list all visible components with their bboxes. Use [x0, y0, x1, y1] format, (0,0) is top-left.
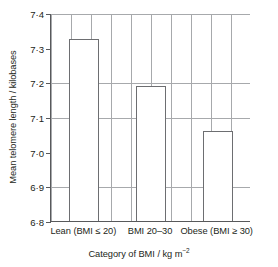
y-axis-tick [46, 83, 51, 84]
y-axis-tick-label: 7·1 [30, 113, 44, 124]
plot-area: 7·47·37·27·17·06·96·8 [50, 14, 250, 222]
bar [136, 86, 166, 221]
y-axis-title: Mean telomere length / kilobases [8, 12, 18, 222]
y-axis-tick [46, 187, 51, 188]
x-axis-category-label: Obese (BMI ≥ 30) [180, 226, 253, 236]
y-axis-tick-label: 7·2 [30, 78, 44, 89]
bar-chart: Mean telomere length / kilobases 7·47·37… [0, 0, 278, 267]
x-axis-title-text: Category of BMI / kg m [88, 249, 182, 259]
bar [203, 131, 233, 221]
x-axis-title-exponent: −2 [182, 247, 189, 254]
y-axis-tick [46, 222, 51, 223]
x-axis-category-label: Lean (BMI ≤ 20) [50, 226, 116, 236]
y-axis-tick [46, 118, 51, 119]
y-axis-tick [46, 14, 51, 15]
x-axis-title: Category of BMI / kg m−2 [0, 247, 278, 259]
y-axis-tick-label: 7·0 [30, 147, 44, 158]
x-axis-category-label: BMI 20–30 [128, 226, 173, 236]
bar [69, 39, 99, 221]
y-axis-tick [46, 49, 51, 50]
y-axis-tick [46, 153, 51, 154]
y-axis-tick-label: 7·3 [30, 43, 44, 54]
y-axis-tick-label: 6·8 [30, 217, 44, 228]
y-axis-tick-label: 7·4 [30, 9, 44, 20]
y-axis-tick-label: 6·9 [30, 182, 44, 193]
